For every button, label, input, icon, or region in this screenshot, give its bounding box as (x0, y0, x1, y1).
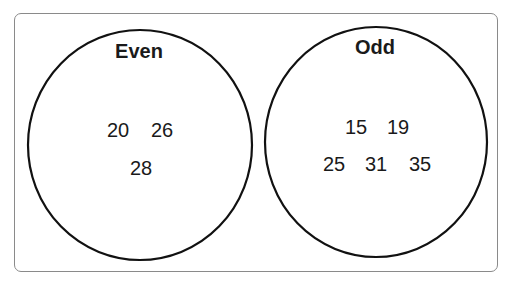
even-set-label: Even (115, 40, 163, 63)
odd-set-circle (265, 27, 487, 257)
even-value: 20 (107, 119, 129, 142)
odd-value: 15 (345, 116, 367, 139)
odd-value: 25 (323, 153, 345, 176)
even-set-circle (28, 30, 252, 260)
even-value: 28 (130, 157, 152, 180)
odd-value: 35 (409, 153, 431, 176)
odd-set-label: Odd (355, 36, 395, 59)
venn-circles (0, 0, 508, 285)
odd-value: 19 (387, 116, 409, 139)
even-value: 26 (151, 119, 173, 142)
odd-value: 31 (365, 153, 387, 176)
